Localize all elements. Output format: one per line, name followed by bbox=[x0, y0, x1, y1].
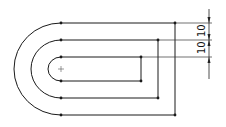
point bbox=[174, 114, 177, 117]
center-mark-icon bbox=[58, 66, 64, 72]
arrow-up-icon bbox=[208, 57, 211, 63]
sketch-points[interactable] bbox=[60, 22, 177, 117]
point bbox=[157, 97, 160, 100]
point bbox=[60, 114, 63, 117]
point bbox=[60, 80, 63, 83]
point bbox=[60, 97, 63, 100]
point bbox=[157, 39, 160, 42]
point bbox=[140, 80, 143, 83]
outer-slot-profile[interactable] bbox=[14, 23, 175, 115]
sketch-canvas[interactable]: 10 10 bbox=[0, 0, 226, 127]
arrow-down-icon bbox=[208, 17, 211, 23]
point bbox=[140, 56, 143, 59]
arrow-up-icon bbox=[208, 40, 211, 46]
dimension-label-top[interactable]: 10 bbox=[196, 24, 207, 37]
middle-slot-profile[interactable] bbox=[31, 40, 158, 98]
point bbox=[174, 22, 177, 25]
dimension-label-bottom[interactable]: 10 bbox=[196, 41, 207, 54]
point bbox=[60, 56, 63, 59]
arrow-down-icon bbox=[208, 34, 211, 40]
point bbox=[60, 22, 63, 25]
point bbox=[60, 39, 63, 42]
